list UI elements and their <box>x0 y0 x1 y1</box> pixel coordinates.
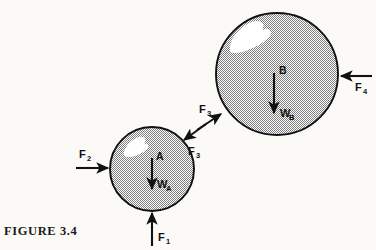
f1-label: F <box>158 231 165 243</box>
force-arrow-f3-on-b: F 3 <box>197 103 221 130</box>
force-arrow-f1: F 1 <box>152 213 170 246</box>
f3-on-b-label: F <box>199 103 206 115</box>
weight-b-subscript: B <box>289 113 295 122</box>
force-arrow-f2: F 2 <box>76 148 108 168</box>
force-arrow-f4: F 4 <box>341 76 372 96</box>
weight-a-subscript: A <box>166 184 172 193</box>
point-label-a: A <box>156 150 164 162</box>
force-arrow-f3-on-a: F 3 <box>184 124 206 160</box>
f1-subscript: 1 <box>166 237 170 246</box>
f2-label: F <box>79 148 86 160</box>
figure-3-4: A W A B W B F 1 F 2 F 3 <box>0 0 376 250</box>
f3-on-a-subscript: 3 <box>196 151 200 160</box>
f4-subscript: 4 <box>363 87 368 96</box>
f2-subscript: 2 <box>87 154 91 163</box>
sphere-b-outline <box>216 13 338 135</box>
figure-caption: FIGURE 3.4 <box>4 224 77 239</box>
point-label-b: B <box>279 64 287 76</box>
f3-on-a-label: F <box>188 145 195 157</box>
f3-on-a-arrow <box>184 124 206 140</box>
sphere-b <box>216 13 338 135</box>
f4-label: F <box>355 81 362 93</box>
figure-canvas: A W A B W B F 1 F 2 F 3 <box>0 0 376 250</box>
f3-on-b-subscript: 3 <box>207 109 211 118</box>
